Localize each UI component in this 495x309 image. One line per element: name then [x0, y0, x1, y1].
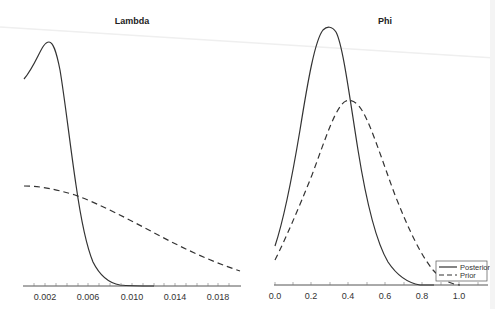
- lambda-title: Lambda: [115, 16, 151, 26]
- scan-artifact-line: [0, 27, 495, 58]
- legend-prior-label: Prior: [460, 271, 476, 280]
- lambda-tick-label: 0.014: [164, 292, 187, 302]
- phi-tick-label: 0.2: [305, 291, 318, 301]
- lambda-tick-label: 0.018: [207, 292, 230, 302]
- lambda-prior-curve: [24, 186, 240, 271]
- phi-tick-label: 0.6: [379, 291, 392, 301]
- page-edge: [490, 0, 495, 309]
- lambda-tick-label: 0.002: [34, 292, 57, 302]
- figure: Lambda 0.002 0.006 0.010 0.014: [0, 0, 495, 309]
- lambda-panel: Lambda 0.002 0.006 0.010 0.014: [23, 16, 241, 302]
- phi-tick-label: 1.0: [453, 291, 466, 301]
- phi-title: Phi: [378, 16, 392, 26]
- phi-prior-curve: [275, 100, 460, 285]
- phi-panel: Phi 0.0 0.2 0.4 0.6 0.8 1.0: [269, 16, 491, 301]
- lambda-tick-label: 0.006: [77, 292, 100, 302]
- phi-tick-label: 0.4: [342, 291, 355, 301]
- lambda-posterior-curve: [24, 42, 154, 286]
- phi-posterior-curve: [275, 27, 434, 285]
- legend: Posterior Prior: [436, 261, 491, 281]
- phi-tick-label: 0.0: [269, 291, 282, 301]
- phi-tick-label: 0.8: [416, 291, 429, 301]
- lambda-tick-label: 0.010: [121, 292, 144, 302]
